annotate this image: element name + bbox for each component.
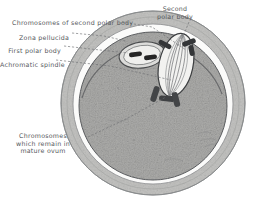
diagram-canvas bbox=[0, 0, 254, 197]
label-chromosomes-second-polar-body: Chromosomes of second polar body bbox=[12, 19, 133, 27]
label-zona-pellucida: Zona pellucida bbox=[0, 34, 69, 42]
label-chromosomes-mature-ovum: Chromosomes which remain in mature ovum bbox=[0, 132, 86, 155]
label-second-polar-body: Second polar body bbox=[145, 5, 205, 20]
label-first-polar-body: First polar body bbox=[0, 47, 61, 55]
label-achromatic-spindle: Achromatic spindle bbox=[0, 61, 53, 69]
ovum-polar-body-diagram: Chromosomes of second polar body Zona pe… bbox=[0, 0, 254, 197]
